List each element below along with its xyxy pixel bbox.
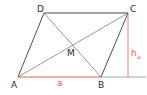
side-label-a: a — [57, 78, 63, 88]
vertex-label-c: C — [130, 4, 136, 14]
vertex-label-d: D — [37, 4, 44, 14]
height-label-h: h — [131, 48, 137, 58]
intersection-label-m: M — [67, 48, 75, 58]
diagonal-ac — [18, 13, 128, 77]
parallelogram-diagram: A B C D M a h a — [0, 0, 147, 95]
height-label-subscript: a — [137, 53, 141, 60]
side-da — [18, 13, 44, 77]
vertex-label-b: B — [98, 80, 104, 90]
vertex-label-a: A — [11, 80, 18, 90]
diagonal-bd — [44, 13, 101, 77]
side-cb — [101, 13, 128, 77]
